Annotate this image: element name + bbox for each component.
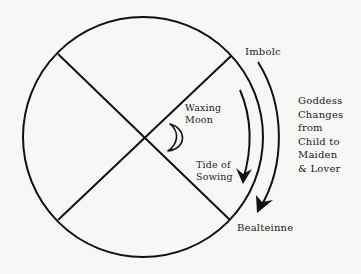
bealteinne-label: Bealteinne	[237, 221, 293, 235]
bealteinne-text: Bealteinne	[237, 222, 293, 233]
tide-of-sowing-label: Tide of Sowing	[196, 159, 233, 183]
goddess-line-3: from	[298, 121, 343, 135]
imbolc-text: Imbolc	[245, 46, 281, 57]
goddess-line-4: Child to	[298, 135, 343, 149]
outer-arrow	[258, 62, 279, 208]
inner-arrow-head	[236, 168, 252, 184]
goddess-line-1: Goddess	[298, 94, 343, 108]
crescent-moon-icon	[168, 124, 183, 151]
goddess-line-5: Maiden	[298, 148, 343, 162]
tide-of-text: Tide of	[196, 159, 233, 171]
inner-arrow	[240, 90, 249, 180]
waxing-text: Waxing	[185, 102, 221, 114]
imbolc-label: Imbolc	[245, 45, 281, 59]
goddess-label: Goddess Changes from Child to Maiden & L…	[298, 94, 343, 175]
goddess-line-2: Changes	[298, 108, 343, 122]
waxing-moon-label: Waxing Moon	[185, 102, 221, 126]
sowing-text: Sowing	[196, 171, 233, 183]
goddess-line-6: & Lover	[298, 162, 343, 176]
moon-text: Moon	[185, 114, 221, 126]
